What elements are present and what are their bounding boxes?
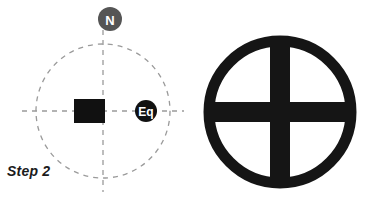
panel-crossed-circle	[190, 0, 373, 204]
bar-magnet	[74, 99, 105, 123]
right-diagram-svg	[190, 0, 373, 204]
equator-marker-label: Eq	[138, 105, 153, 119]
north-marker: N	[98, 7, 122, 31]
cross-horizontal-bar	[206, 102, 354, 122]
figure-root: N Eq Step 2	[0, 0, 373, 204]
equator-marker: Eq	[135, 100, 157, 122]
step-caption: Step 2	[7, 163, 50, 179]
panel-earth-cross-section: N Eq Step 2	[0, 0, 190, 204]
north-marker-label: N	[105, 13, 114, 28]
